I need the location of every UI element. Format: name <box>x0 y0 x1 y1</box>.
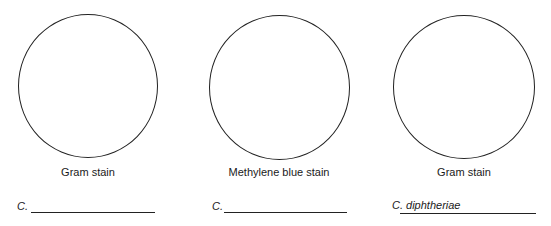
drawing-circle-1[interactable] <box>18 14 158 158</box>
drawing-circle-3[interactable] <box>393 15 535 159</box>
organism-prefix-2: C. <box>212 200 223 212</box>
stain-label-2: Methylene blue stain <box>189 166 369 178</box>
organism-prefix-3: C. diphtheriae <box>392 199 461 211</box>
organism-answer-line-2[interactable] <box>224 212 347 213</box>
organism-answer-line-1[interactable] <box>31 212 155 213</box>
stain-label-1: Gram stain <box>0 166 178 178</box>
drawing-circle-2[interactable] <box>209 15 350 160</box>
stain-label-3: Gram stain <box>374 166 551 178</box>
organism-prefix-1: C. <box>17 200 28 212</box>
organism-answer-line-3[interactable] <box>400 213 536 214</box>
